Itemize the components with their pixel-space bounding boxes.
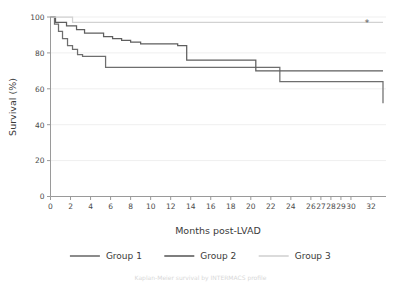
x-tick-label-22: 22 [266,202,276,211]
legend-label-1: Group 1 [106,251,142,261]
x-tick-label-30: 30 [346,202,356,211]
x-tick-label-32: 32 [366,202,376,211]
y-tick-label-40: 40 [35,121,45,130]
kaplan-meier-survival-figure: 020406080100 024681012141618202224262728… [0,0,401,282]
x-tick-label-24: 24 [286,202,296,211]
x-tick-label-4: 4 [88,202,93,211]
chart-annotations: * [365,18,370,28]
x-tick-label-8: 8 [128,202,133,211]
x-tick-label-14: 14 [186,202,196,211]
legend-label-3: Group 3 [295,251,331,261]
survival-curves-group [51,17,383,103]
x-tick-label-27: 27 [316,202,326,211]
y-axis-title: Survival (%) [7,78,18,136]
y-tick-label-60: 60 [35,85,45,94]
chart-legend: Group 1Group 2Group 3 [70,251,331,261]
y-tick-label-0: 0 [40,192,45,201]
x-tick-label-18: 18 [226,202,236,211]
x-tick-label-28: 28 [326,202,336,211]
x-tick-label-20: 20 [246,202,256,211]
legend-item-3[interactable]: Group 3 [259,251,331,261]
y-tick-label-100: 100 [30,13,45,22]
figure-caption: Kaplan-Meier survival by INTERMACS profi… [0,274,401,282]
legend-label-2: Group 2 [200,251,236,261]
x-tick-label-12: 12 [166,202,176,211]
x-tick-label-26: 26 [306,202,316,211]
significance-asterisk: * [365,18,370,28]
x-tick-label-29: 29 [336,202,346,211]
y-tick-label-20: 20 [35,156,45,165]
x-tick-label-10: 10 [146,202,156,211]
legend-item-2[interactable]: Group 2 [164,251,236,261]
x-tick-label-16: 16 [206,202,216,211]
survival-curve-3 [51,17,383,22]
x-tick-label-0: 0 [48,202,53,211]
x-axis-title: Months post-LVAD [175,225,261,236]
y-tick-label-80: 80 [35,49,45,58]
x-tick-label-2: 2 [68,202,73,211]
survival-chart-canvas: 020406080100 024681012141618202224262728… [0,0,401,268]
y-tick-group: 020406080100 [30,13,50,202]
x-tick-group: 024681012141618202224262728293032 [48,197,376,212]
y-gridlines [51,17,387,161]
legend-item-1[interactable]: Group 1 [70,251,142,261]
x-tick-label-6: 6 [108,202,113,211]
survival-curve-2 [51,17,383,71]
